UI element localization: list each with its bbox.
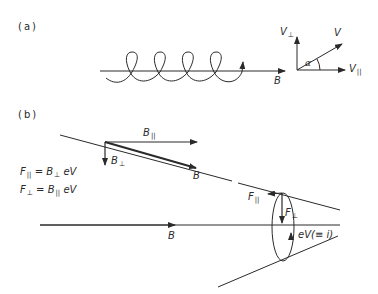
v-label: V <box>334 28 341 38</box>
field-b-label: B <box>274 76 281 86</box>
alpha-arc <box>317 59 320 70</box>
helical-trajectory <box>106 52 243 82</box>
axis-b-label: B <box>168 231 175 241</box>
v-perp-label: V⊥ <box>280 27 294 37</box>
equation-f-perp: F⊥ = B|| eV <box>20 185 76 195</box>
b-par-label: B|| <box>143 128 156 138</box>
b-label: B <box>193 171 200 181</box>
lower-field-line <box>218 236 338 287</box>
equation-f-par: F|| = B⊥ eV <box>20 167 76 177</box>
loop-ellipse <box>272 193 294 261</box>
panel-b-label: (b) <box>18 110 38 120</box>
b-perp-label: B⊥ <box>111 156 125 166</box>
f-par-label: F|| <box>248 192 259 202</box>
current-loop <box>268 193 294 261</box>
panel-a-label: (a) <box>18 22 38 32</box>
f-perp-label: F⊥ <box>285 208 298 218</box>
alpha-label: α <box>305 59 311 68</box>
diagram-canvas <box>0 0 378 294</box>
v-par-label: V|| <box>349 64 362 74</box>
current-label: eV(≡ i) <box>298 230 333 240</box>
